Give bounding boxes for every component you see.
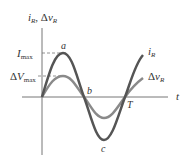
voltage-curve-label: ΔvR — [148, 70, 165, 84]
point-b-label: b — [87, 85, 92, 96]
current-voltage-waveform-diagram: iR, ΔvR Imax ΔVmax a b c T t iR ΔvR — [0, 0, 189, 161]
point-a-label: a — [61, 40, 66, 51]
t-axis-label: t — [176, 90, 180, 102]
current-curve-label: iR — [148, 45, 156, 59]
dvmax-label: ΔVmax — [10, 70, 36, 84]
point-c-label: c — [101, 143, 106, 154]
period-T-label: T — [127, 99, 134, 110]
imax-label: Imax — [16, 47, 33, 61]
y-axis-label: iR, ΔvR — [28, 11, 58, 25]
